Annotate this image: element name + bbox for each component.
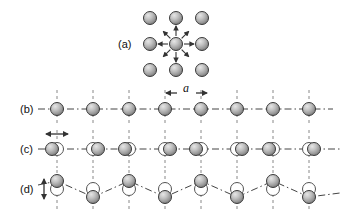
- equilibrium-atom: [87, 103, 100, 116]
- displaced-atom: [263, 143, 276, 156]
- panel-c-label: (c): [20, 143, 33, 155]
- displaced-atom: [231, 191, 244, 204]
- equilibrium-atom: [51, 103, 64, 116]
- displaced-atom: [159, 191, 172, 204]
- equilibrium-atom: [267, 103, 280, 116]
- panel-a-lattice-grid: [144, 12, 209, 77]
- displaced-atom: [303, 191, 316, 204]
- panel-b-label: (b): [20, 103, 33, 115]
- displaced-atom: [236, 143, 249, 156]
- equilibrium-atom: [303, 103, 316, 116]
- central-atom: [170, 38, 183, 51]
- equilibrium-atom: [159, 103, 172, 116]
- equilibrium-atom: [231, 103, 244, 116]
- lattice-atom: [170, 64, 183, 77]
- displaced-atom: [92, 143, 105, 156]
- equilibrium-atom: [123, 103, 136, 116]
- displaced-atom: [164, 143, 177, 156]
- lattice-atom: [144, 12, 157, 25]
- panel-d-label: (d): [20, 183, 33, 195]
- displaced-atom: [123, 175, 136, 188]
- displaced-atom: [267, 175, 280, 188]
- displaced-atom: [308, 143, 321, 156]
- displaced-atom: [46, 143, 59, 156]
- equilibrium-atom: [195, 103, 208, 116]
- lattice-atom: [196, 64, 209, 77]
- displaced-atom: [119, 143, 132, 156]
- phonon-lattice-figure: (a) (b) a (c): [0, 0, 347, 216]
- figure-canvas: (a) (b) a (c): [0, 0, 347, 216]
- displaced-atom: [51, 175, 64, 188]
- lattice-atom: [196, 38, 209, 51]
- lattice-constant-label: a: [183, 81, 189, 95]
- displaced-atom: [87, 191, 100, 204]
- lattice-atom: [196, 12, 209, 25]
- lattice-atom: [144, 64, 157, 77]
- displaced-atom: [195, 175, 208, 188]
- lattice-atom: [170, 12, 183, 25]
- lattice-atom: [144, 38, 157, 51]
- displaced-atom: [190, 143, 203, 156]
- panel-a-label: (a): [118, 38, 131, 50]
